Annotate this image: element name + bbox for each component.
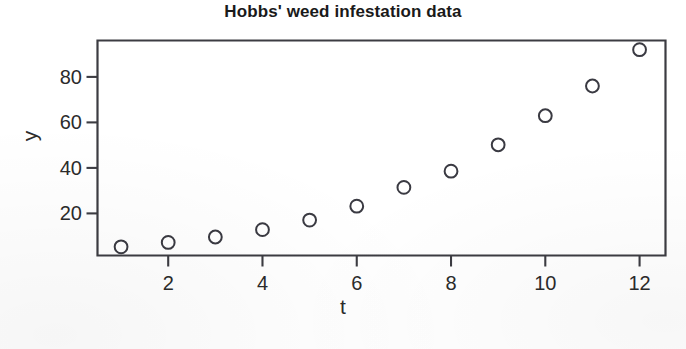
x-axis-tick-label: 10 bbox=[534, 272, 556, 295]
y-axis-tick-label: 40 bbox=[40, 156, 82, 179]
y-axis-tick-label: 80 bbox=[40, 65, 82, 88]
y-axis-tick-label: 60 bbox=[40, 111, 82, 134]
y-axis-title: y bbox=[18, 118, 42, 154]
x-axis-tick-label: 2 bbox=[163, 272, 174, 295]
plot-frame bbox=[98, 41, 666, 256]
x-axis-tick-label: 6 bbox=[351, 272, 362, 295]
x-axis-tick-label: 4 bbox=[257, 272, 268, 295]
chart-screenshot: Hobbs' weed infestation data 80604020 24… bbox=[0, 0, 686, 349]
x-axis-tick-label: 8 bbox=[445, 272, 456, 295]
y-axis-tick-label: 20 bbox=[40, 202, 82, 225]
y-axis-ticks bbox=[87, 77, 98, 214]
data-points bbox=[115, 43, 646, 253]
x-axis-tick-label: 12 bbox=[628, 272, 650, 295]
x-axis-title: t bbox=[0, 295, 686, 319]
x-axis-ticks bbox=[168, 256, 639, 267]
